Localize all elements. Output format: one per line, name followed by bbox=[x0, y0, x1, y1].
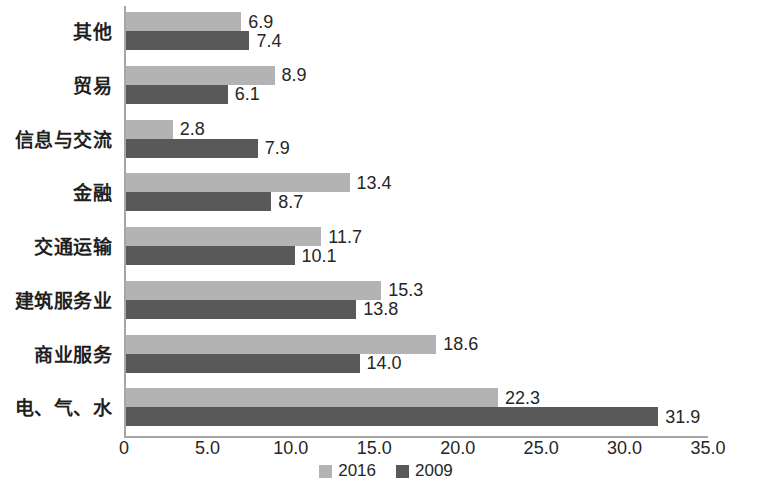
bar-2009: 6.1 bbox=[126, 85, 228, 104]
bar-value-label: 14.0 bbox=[367, 353, 402, 374]
bar-2016: 15.3 bbox=[126, 281, 381, 300]
bar-value-label: 2.8 bbox=[180, 119, 205, 140]
bar-group: 交通运输11.710.1 bbox=[124, 221, 708, 275]
category-label: 建筑服务业 bbox=[15, 275, 113, 329]
category-label: 交通运输 bbox=[34, 221, 112, 275]
bar-2016: 18.6 bbox=[126, 335, 436, 354]
bar-value-label: 8.7 bbox=[278, 191, 303, 212]
bar-group: 贸易8.96.1 bbox=[124, 60, 708, 114]
bar-value-label: 15.3 bbox=[388, 280, 423, 301]
bar-2009: 7.9 bbox=[126, 139, 258, 158]
bar-value-label: 31.9 bbox=[665, 406, 700, 427]
bar-group: 金融13.48.7 bbox=[124, 167, 708, 221]
category-label: 信息与交流 bbox=[15, 114, 113, 168]
bar-value-label: 22.3 bbox=[505, 387, 540, 408]
bar-2009: 8.7 bbox=[126, 192, 271, 211]
x-tick-label: 25.0 bbox=[524, 438, 559, 459]
bar-value-label: 7.4 bbox=[256, 30, 281, 51]
bar-group: 信息与交流2.87.9 bbox=[124, 114, 708, 168]
bar-group: 其他6.97.4 bbox=[124, 6, 708, 60]
bar-2016: 8.9 bbox=[126, 66, 275, 85]
bar-2009: 7.4 bbox=[126, 31, 249, 50]
legend-label: 2009 bbox=[415, 461, 453, 481]
category-label: 商业服务 bbox=[34, 329, 112, 383]
bar-2016: 22.3 bbox=[126, 388, 498, 407]
category-label: 贸易 bbox=[73, 60, 112, 114]
bar-2009: 14.0 bbox=[126, 354, 360, 373]
bar-value-label: 8.9 bbox=[282, 65, 307, 86]
bar-2016: 11.7 bbox=[126, 227, 321, 246]
bar-value-label: 10.1 bbox=[302, 245, 337, 266]
bar-group: 建筑服务业15.313.8 bbox=[124, 275, 708, 329]
bar-2009: 10.1 bbox=[126, 246, 295, 265]
bar-value-label: 13.8 bbox=[363, 299, 398, 320]
bar-2016: 2.8 bbox=[126, 120, 173, 139]
plot-area: 其他6.97.4贸易8.96.1信息与交流2.87.9金融13.48.7交通运输… bbox=[124, 6, 708, 436]
bar-value-label: 7.9 bbox=[265, 138, 290, 159]
category-label: 其他 bbox=[73, 6, 112, 60]
x-tick-label: 10.0 bbox=[273, 438, 308, 459]
bar-value-label: 11.7 bbox=[328, 226, 362, 247]
bar-group: 商业服务18.614.0 bbox=[124, 329, 708, 383]
bar-2016: 13.4 bbox=[126, 173, 350, 192]
bar-value-label: 18.6 bbox=[443, 334, 478, 355]
legend-item[interactable]: 2016 bbox=[319, 461, 376, 481]
bar-value-label: 13.4 bbox=[357, 172, 392, 193]
x-tick-label: 0 bbox=[119, 438, 129, 459]
legend-swatch-icon bbox=[319, 465, 332, 478]
bar-value-label: 6.9 bbox=[248, 11, 273, 32]
category-label: 电、气、水 bbox=[15, 382, 113, 436]
bar-2016: 6.9 bbox=[126, 12, 241, 31]
bar-2009: 31.9 bbox=[126, 407, 658, 426]
x-tick-label: 5.0 bbox=[195, 438, 220, 459]
legend-swatch-icon bbox=[396, 465, 409, 478]
bar-2009: 13.8 bbox=[126, 300, 356, 319]
x-tick-label: 20.0 bbox=[440, 438, 475, 459]
bar-value-label: 6.1 bbox=[235, 84, 260, 105]
bar-chart: 其他6.97.4贸易8.96.1信息与交流2.87.9金融13.48.7交通运输… bbox=[0, 0, 772, 484]
chart-legend: 20162009 bbox=[0, 461, 772, 481]
legend-item[interactable]: 2009 bbox=[396, 461, 453, 481]
category-label: 金融 bbox=[73, 167, 112, 221]
bar-group: 电、气、水22.331.9 bbox=[124, 382, 708, 436]
x-tick-label: 35.0 bbox=[690, 438, 725, 459]
legend-label: 2016 bbox=[338, 461, 376, 481]
x-tick-label: 15.0 bbox=[357, 438, 392, 459]
x-tick-label: 30.0 bbox=[607, 438, 642, 459]
